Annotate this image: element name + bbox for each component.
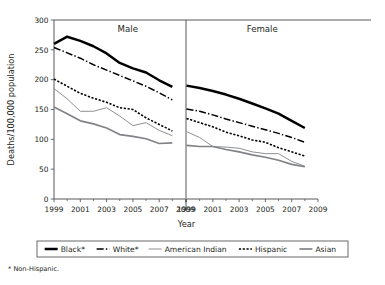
chart-figure: 050100150200250300Deaths/100,000 populat… xyxy=(0,0,385,285)
series-line-black xyxy=(54,37,172,87)
series-line-asian xyxy=(54,107,172,143)
series-line-american-indian xyxy=(54,89,172,136)
x-tick-label: 2001 xyxy=(71,205,90,214)
line-chart: 050100150200250300Deaths/100,000 populat… xyxy=(0,0,385,285)
legend-label-hispanic: Hispanic xyxy=(255,245,287,254)
y-tick-label: 300 xyxy=(34,16,48,25)
x-tick-label: 2005 xyxy=(123,205,142,214)
x-tick-label: 2007 xyxy=(282,205,301,214)
y-tick-label: 100 xyxy=(34,135,48,144)
panel-title-male: Male xyxy=(118,24,138,34)
legend-label-white: White* xyxy=(113,245,139,254)
y-tick-label: 50 xyxy=(39,165,49,174)
series-line-white xyxy=(54,47,172,99)
panel-title-female: Female xyxy=(247,24,278,34)
y-tick-label: 200 xyxy=(34,75,48,84)
legend-label-american-indian: American Indian xyxy=(165,245,227,254)
y-tick-label: 150 xyxy=(34,105,48,114)
y-tick-label: 250 xyxy=(34,46,48,55)
footnote: * Non-Hispanic. xyxy=(8,265,59,273)
legend-label-black: Black* xyxy=(61,245,86,254)
x-tick-label: 1999 xyxy=(45,205,64,214)
y-axis-title: Deaths/100,000 population xyxy=(6,54,16,166)
x-tick-label: 2003 xyxy=(97,205,116,214)
x-tick-label: 2001 xyxy=(203,205,222,214)
x-tick-label: 2005 xyxy=(256,205,275,214)
series-line-hispanic xyxy=(54,79,172,131)
series-line-asian xyxy=(187,145,305,166)
legend-label-asian: Asian xyxy=(315,245,336,254)
y-tick-label: 0 xyxy=(44,195,49,204)
series-line-black xyxy=(187,86,305,128)
x-tick-label: 2007 xyxy=(150,205,169,214)
x-axis-title: Year xyxy=(177,219,196,229)
x-tick-label: 2009 xyxy=(309,205,328,214)
x-tick-label: 2003 xyxy=(230,205,249,214)
x-tick-label: 1999 xyxy=(177,205,196,214)
